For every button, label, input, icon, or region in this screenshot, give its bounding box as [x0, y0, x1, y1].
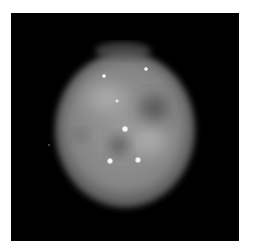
nebula-graphic	[11, 13, 239, 241]
nebula-image	[11, 13, 239, 241]
nebula-body	[55, 42, 195, 208]
